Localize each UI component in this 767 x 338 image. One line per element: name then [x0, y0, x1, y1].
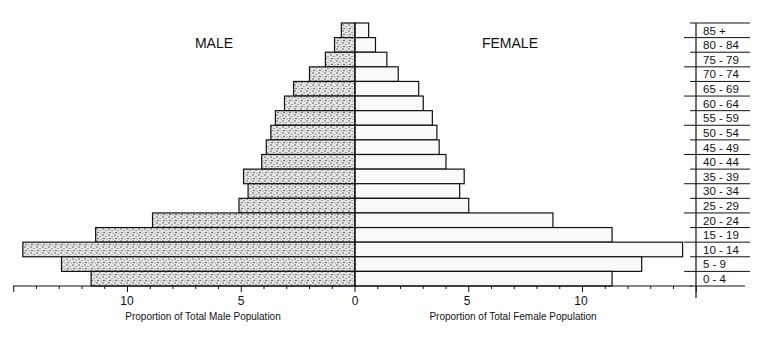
- male-bar: [244, 169, 355, 184]
- female-bar: [355, 111, 432, 126]
- female-bar: [355, 271, 612, 286]
- age-group-label: 75 - 79: [703, 54, 739, 66]
- age-group-label: 35 - 39: [703, 171, 739, 183]
- tick-label-female-5: 5: [464, 294, 471, 308]
- female-bar: [355, 38, 375, 53]
- age-group-label: 10 - 14: [703, 244, 739, 256]
- age-labels: 85 +80 - 8475 - 7970 - 7465 - 6960 - 645…: [684, 23, 750, 286]
- male-bar: [62, 257, 355, 272]
- male-bar: [239, 198, 355, 213]
- female-bar: [355, 96, 423, 111]
- female-bar: [355, 67, 398, 82]
- female-bar: [355, 23, 369, 38]
- age-group-label: 65 - 69: [703, 83, 739, 95]
- age-group-label: 40 - 44: [703, 156, 739, 168]
- age-group-label: 45 - 49: [703, 142, 739, 154]
- male-bar: [266, 140, 355, 155]
- male-bar: [275, 111, 355, 126]
- male-bar: [91, 271, 355, 286]
- male-bar: [335, 38, 355, 53]
- age-group-label: 20 - 24: [703, 215, 739, 227]
- male-bar: [271, 125, 355, 140]
- age-group-label: 15 - 19: [703, 229, 739, 241]
- tick-label-male-10: 10: [120, 294, 134, 308]
- tick-label-0: 0: [352, 294, 359, 308]
- age-group-label: 55 - 59: [703, 112, 739, 124]
- male-bar: [325, 52, 355, 67]
- male-bar: [23, 242, 355, 257]
- female-label: FEMALE: [482, 35, 538, 51]
- x-axis-ticks: [14, 286, 697, 292]
- age-group-label: 25 - 29: [703, 200, 739, 212]
- age-group-label: 0 - 4: [703, 273, 727, 285]
- male-bar: [153, 213, 355, 228]
- male-bar: [341, 23, 355, 38]
- age-group-label: 60 - 64: [703, 98, 739, 110]
- female-bar: [355, 81, 419, 96]
- male-bar: [294, 81, 355, 96]
- female-bar: [355, 169, 464, 184]
- x-axis-label-female: Proportion of Total Female Population: [429, 311, 596, 322]
- age-group-label: 50 - 54: [703, 127, 739, 139]
- male-label: MALE: [195, 35, 233, 51]
- tick-label-female-10: 10: [574, 294, 588, 308]
- female-bar: [355, 198, 469, 213]
- female-bar: [355, 125, 437, 140]
- female-bar: [355, 52, 387, 67]
- age-group-label: 30 - 34: [703, 185, 739, 197]
- female-bar: [355, 184, 460, 199]
- bars-group: [23, 23, 683, 286]
- male-bar: [310, 67, 356, 82]
- female-bar: [355, 155, 446, 170]
- female-bar: [355, 213, 553, 228]
- male-bar: [248, 184, 355, 199]
- age-group-label: 85 +: [703, 25, 726, 37]
- age-group-label: 80 - 84: [703, 39, 739, 51]
- female-bar: [355, 228, 612, 243]
- female-bar: [355, 257, 642, 272]
- male-bar: [96, 228, 355, 243]
- population-pyramid-chart: MALE FEMALE 10 5 0 5 10 Proportion of To…: [0, 0, 767, 338]
- male-bar: [284, 96, 355, 111]
- age-group-label: 5 - 9: [703, 258, 726, 270]
- x-axis-label-male: Proportion of Total Male Population: [125, 311, 280, 322]
- tick-label-male-5: 5: [238, 294, 245, 308]
- female-bar: [355, 140, 439, 155]
- age-group-label: 70 - 74: [703, 68, 739, 80]
- female-bar: [355, 242, 683, 257]
- male-bar: [262, 155, 355, 170]
